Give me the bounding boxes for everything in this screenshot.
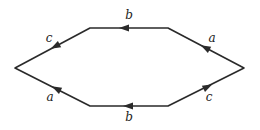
edge-label-bottom: b xyxy=(125,110,133,124)
edge-label-bottom-right: c xyxy=(206,90,213,104)
arrow-bottom xyxy=(123,103,133,110)
edge-label-bottom-left: a xyxy=(46,90,53,104)
edge-label-top-right: a xyxy=(208,31,215,45)
edge-label-top-left: c xyxy=(46,31,53,45)
arrow-top xyxy=(119,25,129,32)
diagram-canvas: b a c a c b xyxy=(0,0,260,130)
hexagon-diagram: b a c a c b xyxy=(0,0,260,130)
edge-label-top: b xyxy=(125,8,133,22)
